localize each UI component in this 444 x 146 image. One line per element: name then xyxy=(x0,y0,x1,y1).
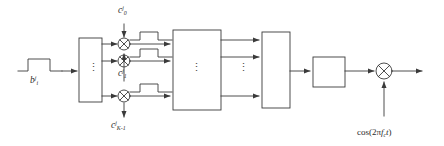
code-label-cK1: cjK-1 xyxy=(111,121,126,132)
input-signal-label: bji xyxy=(30,76,38,87)
input-waveform xyxy=(18,59,62,71)
block-b xyxy=(262,32,290,108)
branch-row-0 xyxy=(130,32,172,44)
carrier-mixer xyxy=(376,63,392,79)
carrier-label: cos(2πfct) xyxy=(357,128,392,138)
branch-row-1 xyxy=(130,49,172,61)
diagram-canvas xyxy=(0,0,444,146)
code-label-c0: cj0 xyxy=(118,6,127,17)
block-c xyxy=(313,57,345,87)
branch-row-k xyxy=(130,84,172,96)
mid-vdots-icon: ⋮ xyxy=(238,62,249,73)
splitter-fanout xyxy=(102,44,117,96)
branch-vdots-icon: ⋮ xyxy=(191,62,202,73)
block-diagram-figure: bji cj0 cj1 cjK-1 cos(2πfct) ⋮ ⋮ ⋮ xyxy=(0,0,444,146)
splitter-vdots-icon: ⋮ xyxy=(88,62,99,73)
code-label-c1: cj1 xyxy=(118,69,127,80)
